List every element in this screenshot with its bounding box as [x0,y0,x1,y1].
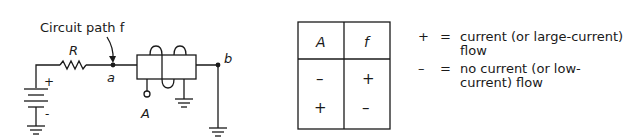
legend: + = current (or large-current) flow – = … [418,30,630,94]
node-b-dot [216,63,221,68]
node-a-label: a [107,70,115,85]
node-a-dot [111,63,116,68]
battery-plus-label: + [44,75,54,89]
table-header-f: f [364,34,371,50]
table-header-a: A [315,34,326,50]
resistor-label: R [69,43,78,58]
circuit-path-label: Circuit path f [40,20,125,35]
table-cell: – [362,99,370,117]
table-cell: + [362,70,375,88]
legend-equals: = [440,62,460,90]
input-a-label: A [140,106,150,121]
arrowhead-icon [109,56,116,63]
truth-table: A f – + + – [298,22,390,129]
ground-battery-icon [27,126,45,134]
legend-item-plus: + = current (or large-current) flow [418,30,630,58]
legend-symbol: – [418,62,440,90]
table-cell: – [316,70,324,88]
legend-symbol: + [418,30,440,58]
relay-body [137,55,196,79]
coil-icon [150,46,174,88]
resistor-icon [60,61,86,69]
ground-b-icon [209,128,227,136]
node-b-label: b [224,51,232,66]
legend-text: no current (or low-current) flow [460,62,630,90]
coil-loop-icon [174,46,186,55]
input-terminal-icon [144,91,150,97]
legend-equals: = [440,30,460,58]
battery-minus-label: - [45,107,49,121]
wire-to-b [196,65,218,128]
table-cell: + [314,99,327,117]
ground-icon [175,99,193,107]
legend-text: current (or large-current) flow [460,30,630,58]
legend-item-minus: – = no current (or low-current) flow [418,62,630,90]
